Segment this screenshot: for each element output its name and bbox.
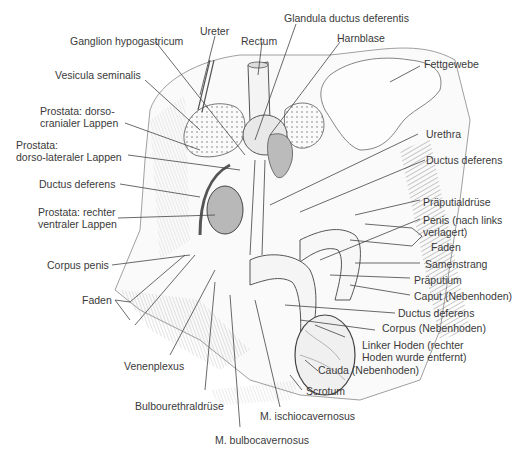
label-line: verlagert) — [423, 226, 502, 238]
label-line: Penis (nach links — [423, 214, 502, 226]
label-line: dorso-lateraler Lappen — [16, 151, 122, 163]
label-scrotum: Scrotum — [306, 385, 345, 397]
label-m-bulbocavernosus: M. bulbocavernosus — [215, 434, 309, 446]
label-m-ischiocavernosus: M. ischiocavernosus — [260, 410, 355, 422]
label-corpus-penis: Corpus penis — [47, 259, 109, 271]
label-corpus-nebenhoden: Corpus (Nebenhoden) — [382, 322, 486, 334]
label-harnblase: Harnblase — [337, 32, 385, 44]
label-praeputialdruese: Präputialdrüse — [423, 196, 491, 208]
label-urethra: Urethra — [426, 128, 461, 140]
label-linker-hoden: Linker Hoden (rechter Hoden wurde entfer… — [362, 339, 466, 363]
label-line: Hoden wurde entfernt) — [362, 351, 466, 363]
label-cauda: Cauda (Nebenhoden) — [318, 364, 419, 376]
label-samenstrang: Samenstrang — [425, 258, 487, 270]
label-praeputium: Präputium — [414, 274, 462, 286]
label-faden-left: Faden — [82, 294, 112, 306]
label-line: Prostata: dorso- — [40, 105, 118, 117]
label-rectum: Rectum — [241, 35, 277, 47]
label-line: Prostata: rechter — [38, 206, 117, 218]
label-line: Linker Hoden (rechter — [362, 339, 466, 351]
label-ureter: Ureter — [200, 25, 229, 37]
label-ductus-deferens-upper: Ductus deferens — [426, 154, 502, 166]
label-penis: Penis (nach links verlagert) — [423, 214, 502, 238]
label-faden-right: Faden — [431, 241, 461, 253]
linker-hoden — [295, 315, 355, 395]
label-bulbourethraldruese: Bulbourethraldrüse — [135, 400, 224, 412]
rectum — [248, 62, 270, 122]
label-glandula-ductus-deferentis: Glandula ductus deferentis — [284, 12, 409, 24]
label-line: Prostata: — [16, 139, 122, 151]
label-line: cranialer Lappen — [40, 117, 118, 129]
label-ductus-deferens-left: Ductus deferens — [39, 178, 115, 190]
label-ductus-deferens-right: Ductus deferens — [398, 307, 474, 319]
label-prostata-ventral: Prostata: rechter ventraler Lappen — [38, 206, 117, 230]
label-line: ventraler Lappen — [38, 218, 117, 230]
label-caput: Caput (Nebenhoden) — [414, 290, 512, 302]
label-venenplexus: Venenplexus — [124, 360, 184, 372]
label-fettgewebe: Fettgewebe — [424, 58, 479, 70]
label-ganglion-hypogastricum: Ganglion hypogastricum — [70, 35, 183, 47]
label-prostata-dorsocranial: Prostata: dorso- cranialer Lappen — [40, 105, 118, 129]
label-vesicula-seminalis: Vesicula seminalis — [55, 69, 141, 81]
label-prostata-dorsolateral: Prostata: dorso-lateraler Lappen — [16, 139, 122, 163]
prostata-ventral — [207, 186, 243, 234]
